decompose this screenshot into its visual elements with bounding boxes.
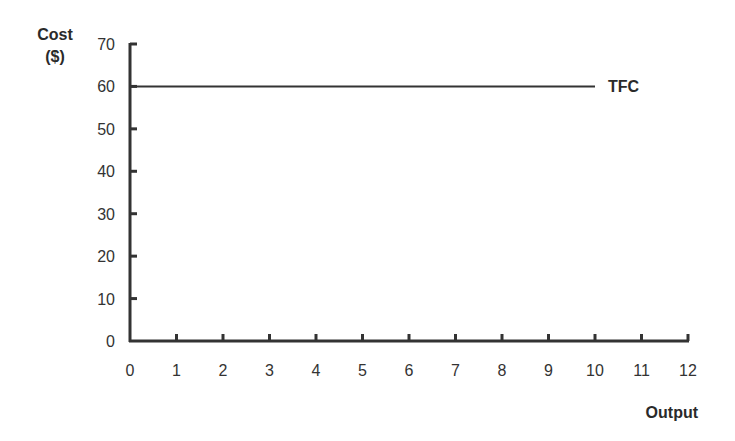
x-tick-label: 7 [451, 362, 460, 379]
x-tick-label: 0 [126, 362, 135, 379]
x-axis-title: Output [646, 404, 699, 421]
x-tick-label: 8 [498, 362, 507, 379]
y-axis-title-line-2: ($) [45, 48, 65, 65]
y-tick-label: 30 [97, 206, 115, 223]
x-tick-label: 6 [405, 362, 414, 379]
y-tick-label: 60 [97, 78, 115, 95]
x-tick-label: 5 [358, 362, 367, 379]
y-tick-label: 40 [97, 163, 115, 180]
series-layer: TFC [130, 78, 640, 95]
series-label-tfc: TFC [608, 78, 640, 95]
y-tick-label: 50 [97, 121, 115, 138]
x-tick-label: 1 [172, 362, 181, 379]
x-tick-label: 11 [633, 362, 650, 379]
x-tick-label: 10 [586, 362, 604, 379]
y-axis-title: Cost ($) [37, 26, 73, 65]
x-tick-label: 2 [219, 362, 228, 379]
y-tick-label: 0 [106, 333, 115, 350]
x-tick-label: 9 [544, 362, 553, 379]
y-tick-label: 70 [97, 36, 115, 53]
y-axis-title-line-1: Cost [37, 26, 73, 43]
y-tick-label: 10 [97, 291, 115, 308]
y-tick-label: 20 [97, 248, 115, 265]
x-tick-label: 3 [265, 362, 274, 379]
x-tick-label: 4 [312, 362, 321, 379]
tfc-chart: Cost ($) 010203040506070 012345678910111… [0, 0, 735, 441]
x-tick-label: 12 [679, 362, 697, 379]
